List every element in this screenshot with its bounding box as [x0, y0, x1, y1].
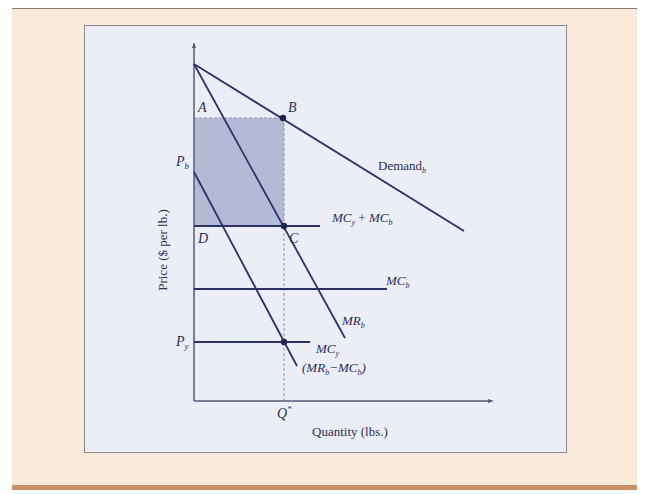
y-axis-title: Price ($ per lb.) [155, 209, 170, 291]
mr-b-label: MRb [341, 313, 365, 330]
point-b-label: B [288, 100, 297, 115]
qstar-label: Q* [277, 405, 291, 421]
point-a-label: A [197, 100, 207, 115]
economics-diagram: A B C D Pb Py Q* Demandb MCy + MCb MCb M… [0, 0, 651, 494]
point-c-label: C [289, 231, 299, 246]
demand-label: Demandb [378, 158, 426, 175]
x-axis-arrow-icon [488, 399, 494, 403]
py-label: Py [175, 334, 189, 351]
shaded-profit-area [194, 118, 284, 226]
y-axis-arrow-icon [192, 42, 196, 48]
mc-sum-label: MCy + MCb [331, 210, 392, 227]
mc-y-label: MCy [315, 341, 340, 358]
point-c-marker [281, 223, 287, 229]
point-d-label: D [197, 231, 208, 246]
point-b-marker [280, 115, 286, 121]
pb-label: Pb [175, 154, 190, 171]
mr-minus-mc-label: (MRb−MCb) [302, 360, 366, 377]
point-qstar-py-marker [281, 339, 287, 345]
x-axis-title: Quantity (lbs.) [312, 424, 388, 439]
mc-b-label: MCb [385, 273, 410, 290]
